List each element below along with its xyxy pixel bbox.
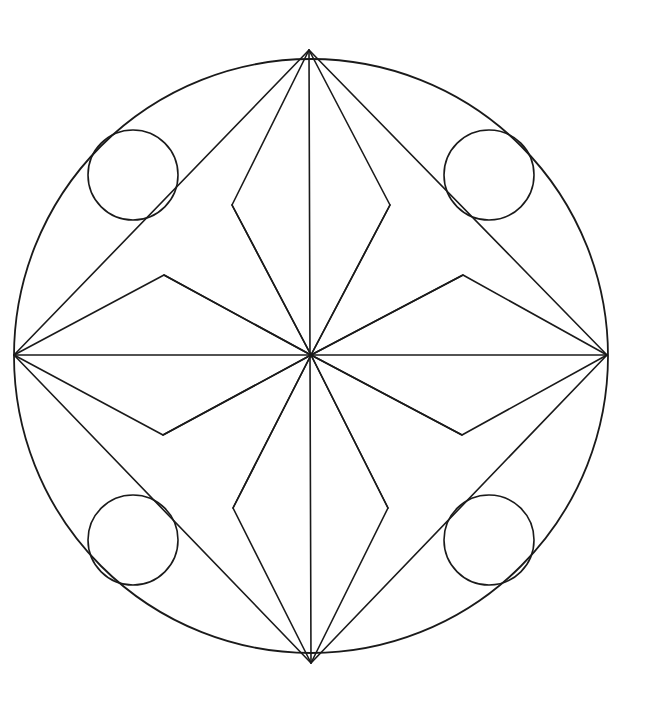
mandala-svg [0, 0, 649, 706]
background-rect [0, 0, 649, 706]
mandala-canvas [0, 0, 649, 706]
